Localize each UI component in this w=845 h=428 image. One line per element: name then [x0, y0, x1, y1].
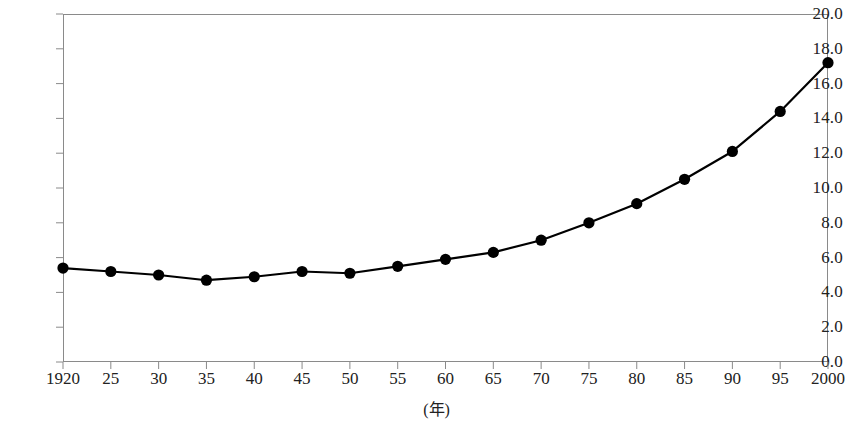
y-axis-tick-label: 16.0 [787, 75, 843, 92]
y-axis-ticks [56, 14, 63, 362]
x-axis-tick-label: 65 [485, 370, 502, 388]
x-axis-tick-label: 1920 [46, 370, 80, 388]
y-axis-tick-label: 2.0 [787, 318, 843, 335]
x-axis-tick-label: 75 [580, 370, 597, 388]
x-axis-tick-label: 45 [294, 370, 311, 388]
x-axis-title: (年) [0, 396, 843, 420]
x-axis-tick-label: 40 [246, 370, 263, 388]
y-axis-tick-label: 12.0 [787, 144, 843, 161]
y-axis-tick-label: 0.0 [787, 353, 843, 370]
y-axis-tick-label: 4.0 [787, 283, 843, 300]
x-axis-ticks [63, 362, 828, 369]
x-axis-tick-label: 60 [437, 370, 454, 388]
x-axis-tick-label: 55 [389, 370, 406, 388]
x-axis-tick-label: 2000 [811, 370, 845, 388]
x-axis-tick-label: 25 [102, 370, 119, 388]
x-axis-tick-label: 50 [341, 370, 358, 388]
x-axis-tick-label: 90 [724, 370, 741, 388]
plot-area [63, 14, 828, 362]
y-axis-tick-label: 6.0 [787, 249, 843, 266]
x-axis-tick-label: 35 [198, 370, 215, 388]
x-axis-tick-label: 80 [628, 370, 645, 388]
x-axis-tick-label: 95 [772, 370, 789, 388]
x-axis-title-label: (年) [423, 401, 450, 418]
x-axis-tick-label: 85 [676, 370, 693, 388]
y-axis-tick-label: 14.0 [787, 109, 843, 126]
y-axis-tick-label: 10.0 [787, 179, 843, 196]
y-axis-tick-label: 20.0 [787, 5, 843, 22]
x-axis-tick-label: 70 [533, 370, 550, 388]
x-axis-tick-label: 30 [150, 370, 167, 388]
y-axis-tick-label: 8.0 [787, 214, 843, 231]
y-axis-tick-label: 18.0 [787, 40, 843, 57]
